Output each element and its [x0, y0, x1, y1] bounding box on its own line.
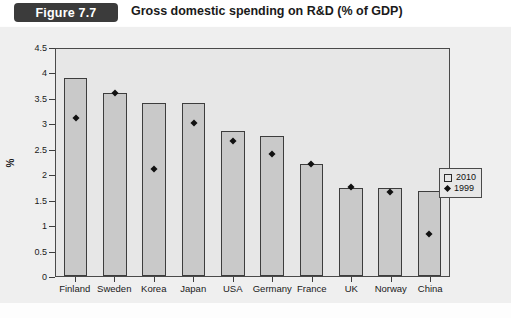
x-axis-tick-label: China [418, 283, 443, 294]
legend-item: 2010 [444, 172, 476, 183]
bar-2010 [221, 131, 245, 276]
x-axis-slot: Korea [134, 277, 174, 303]
figure-page: Figure 7.7 Gross domestic spending on R&… [0, 0, 511, 318]
bar-2010 [142, 103, 166, 276]
x-axis-tick-label: Germany [253, 283, 292, 294]
open-square-icon [444, 174, 452, 182]
x-axis-tick-label: USA [223, 283, 243, 294]
x-axis-slot: Sweden [95, 277, 135, 303]
bar-slot [370, 49, 409, 276]
x-axis-tick-label: Finland [59, 283, 90, 294]
bar-2010 [339, 188, 363, 276]
y-axis-tick-label: 1.5 [34, 196, 47, 206]
x-axis-slot: Norway [371, 277, 411, 303]
bar-2010 [64, 78, 88, 276]
bar-slot [410, 49, 449, 276]
y-axis: 00.511.522.533.544.5% [0, 48, 55, 277]
x-axis-slot: France [292, 277, 332, 303]
x-axis-tick-mark [272, 277, 273, 282]
x-axis-tick-label: Japan [180, 283, 206, 294]
y-axis-tick-label: 3 [42, 119, 47, 129]
x-axis: FinlandSwedenKoreaJapanUSAGermanyFranceU… [55, 277, 450, 303]
y-axis-tick-label: 4 [42, 68, 47, 78]
y-axis-tick-label: 1 [42, 221, 47, 231]
bar-2010 [182, 103, 206, 276]
plot-area [55, 48, 450, 277]
bar-2010 [378, 188, 402, 276]
bar-series-2010 [56, 49, 449, 276]
x-axis-slot: China [411, 277, 451, 303]
x-axis-slot: Germany [253, 277, 293, 303]
y-axis-tick-label: 0 [42, 272, 47, 282]
x-axis-tick-mark [351, 277, 352, 282]
figure-title: Gross domestic spending on R&D (% of GDP… [131, 4, 403, 18]
y-axis-tick-label: 2.5 [34, 145, 47, 155]
y-axis-tick-label: 2 [42, 170, 47, 180]
x-axis-tick-mark [312, 277, 313, 282]
legend-item-label: 2010 [456, 172, 476, 183]
chart-legend: 20101999 [439, 168, 482, 198]
figure-header: Figure 7.7 Gross domestic spending on R&… [0, 0, 511, 26]
x-axis-tick-label: UK [345, 283, 358, 294]
legend-item-label: 1999 [454, 183, 474, 194]
bar-2010 [103, 93, 127, 276]
bar-slot [174, 49, 213, 276]
x-axis-tick-label: France [297, 283, 327, 294]
x-axis-slot: USA [213, 277, 253, 303]
x-axis-tick-label: Sweden [97, 283, 131, 294]
bar-slot [252, 49, 291, 276]
y-axis-tick-label: 3.5 [34, 94, 47, 104]
filled-diamond-icon [444, 185, 451, 192]
bar-slot [95, 49, 134, 276]
x-axis-slot: Japan [174, 277, 214, 303]
x-axis-tick-mark [391, 277, 392, 282]
bar-slot [213, 49, 252, 276]
figure-number-badge: Figure 7.7 [14, 3, 118, 22]
bar-slot [135, 49, 174, 276]
y-axis-tick-label: 0.5 [34, 247, 47, 257]
x-axis-tick-mark [75, 277, 76, 282]
bar-slot [292, 49, 331, 276]
x-axis-slot: UK [332, 277, 372, 303]
legend-item: 1999 [444, 183, 476, 194]
chart-panel: 00.511.522.533.544.5% FinlandSwedenKorea… [0, 27, 511, 303]
y-axis-tick-label: 4.5 [34, 43, 47, 53]
x-axis-tick-mark [114, 277, 115, 282]
bar-slot [56, 49, 95, 276]
x-axis-tick-mark [154, 277, 155, 282]
x-axis-slot: Finland [55, 277, 95, 303]
x-axis-tick-mark [430, 277, 431, 282]
x-axis-tick-mark [233, 277, 234, 282]
x-axis-tick-label: Korea [141, 283, 166, 294]
bar-slot [331, 49, 370, 276]
bar-2010 [300, 164, 324, 276]
x-axis-tick-mark [193, 277, 194, 282]
y-axis-label: % [5, 158, 16, 167]
x-axis-tick-label: Norway [375, 283, 407, 294]
